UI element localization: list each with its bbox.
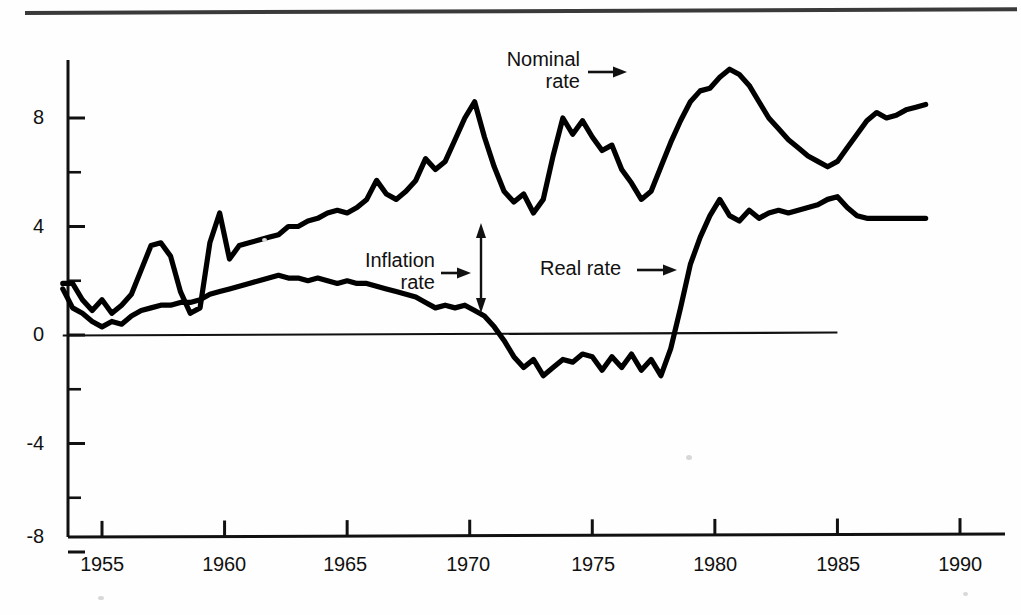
inflation-gap-double-arrow — [476, 223, 486, 313]
y-tick-label-8: 8 — [16, 106, 44, 129]
annotation-nominal-rate: Nominal rate — [420, 49, 580, 92]
annotation-inflation-rate-line2: rate — [275, 272, 435, 294]
x-tick-label-1960: 1960 — [179, 553, 269, 576]
scan-speck — [262, 238, 267, 242]
annotation-nominal-rate-line2: rate — [420, 71, 580, 93]
inflation-rate-pointer-arrow — [441, 268, 471, 279]
x-tick-label-1985: 1985 — [793, 553, 883, 576]
zero-reference-line — [63, 333, 838, 336]
annotation-inflation-rate: Inflation rate — [275, 250, 435, 293]
scan-speck — [963, 592, 968, 596]
x-tick-label-1980: 1980 — [670, 553, 760, 576]
annotation-real-rate: Real rate — [540, 258, 700, 280]
series-line-nominal-rate — [63, 69, 926, 313]
scan-speck — [686, 455, 692, 460]
y-tick-label-4: 4 — [16, 215, 44, 238]
annotation-nominal-rate-line1: Nominal — [420, 49, 580, 71]
x-tick-label-1965: 1965 — [300, 553, 390, 576]
annotation-inflation-rate-line1: Inflation — [275, 250, 435, 272]
series-line-real-rate — [63, 197, 926, 376]
x-tick-label-1975: 1975 — [548, 553, 638, 576]
chart-figure: 8 4 0 -4 -8 1955 1960 1965 1970 1975 198… — [0, 0, 1021, 615]
x-tick-label-1990: 1990 — [915, 553, 1005, 576]
x-tick-label-1970: 1970 — [423, 553, 513, 576]
y-tick-label-neg8: -8 — [8, 525, 44, 548]
annotation-real-rate-line1: Real rate — [540, 258, 700, 280]
scan-speck — [98, 596, 104, 600]
chart-plot-area — [0, 0, 1021, 615]
axes-group — [68, 60, 1005, 537]
x-tick-label-1955: 1955 — [57, 553, 147, 576]
nominal-rate-pointer-arrow — [588, 67, 627, 78]
x-axis-spine — [68, 534, 1005, 537]
y-tick-label-0: 0 — [16, 323, 44, 346]
y-tick-label-neg4: -4 — [8, 432, 44, 455]
